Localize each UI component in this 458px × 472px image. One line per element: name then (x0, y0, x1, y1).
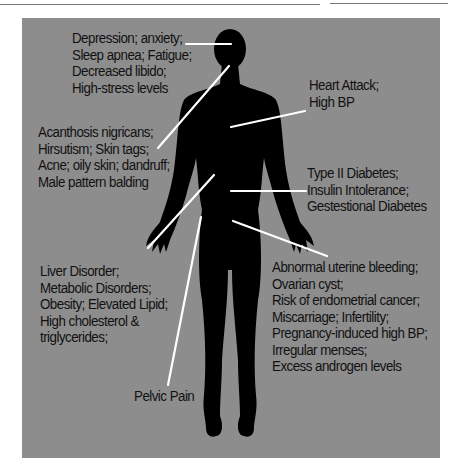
label-line: Excess androgen levels (272, 358, 428, 375)
label-reproductive: Abnormal uterine bleeding; Ovarian cyst;… (272, 259, 428, 375)
label-line: Irregular menses; (272, 342, 428, 359)
label-line: Pelvic Pain (134, 388, 194, 405)
label-line: Hirsutism; Skin tags; (38, 141, 170, 158)
label-line: High BP (309, 94, 379, 111)
label-liver: Liver Disorder; Metabolic Disorders; Obe… (40, 263, 168, 346)
label-line: Obesity; Elevated Lipid; (40, 296, 168, 313)
label-line: Heart Attack; (309, 77, 379, 94)
label-line: Male pattern balding (38, 174, 170, 191)
label-pancreas: Type II Diabetes; Insulin Intolerance; G… (307, 165, 427, 215)
label-line: Liver Disorder; (40, 263, 168, 280)
body-silhouette-figure (0, 0, 458, 472)
label-line: Acanthosis nigricans; (38, 124, 170, 141)
label-line: Gestestional Diabetes (307, 198, 427, 215)
label-line: Type II Diabetes; (307, 165, 427, 182)
label-line: Decreased libido; (72, 63, 192, 80)
label-line: High-stress levels (72, 80, 192, 97)
label-line: High cholesterol & (40, 313, 168, 330)
label-line: Depression; anxiety; (72, 30, 192, 47)
label-line: Insulin Intolerance; (307, 182, 427, 199)
label-brain: Depression; anxiety; Sleep apnea; Fatigu… (72, 30, 192, 96)
leader-line-pelvis (168, 217, 201, 385)
label-heart: Heart Attack; High BP (309, 77, 379, 110)
label-line: Ovarian cyst; (272, 276, 428, 293)
label-skin: Acanthosis nigricans; Hirsutism; Skin ta… (38, 124, 170, 190)
label-line: Metabolic Disorders; (40, 280, 168, 297)
label-line: Acne; oily skin; dandruff; (38, 157, 170, 174)
label-pelvis: Pelvic Pain (134, 388, 194, 405)
label-line: Abnormal uterine bleeding; (272, 259, 428, 276)
label-line: Miscarriage; Infertility; (272, 309, 428, 326)
label-line: Risk of endometrial cancer; (272, 292, 428, 309)
label-line: Pregnancy-induced high BP; (272, 325, 428, 342)
label-line: triglycerides; (40, 329, 168, 346)
label-line: Sleep apnea; Fatigue; (72, 47, 192, 64)
